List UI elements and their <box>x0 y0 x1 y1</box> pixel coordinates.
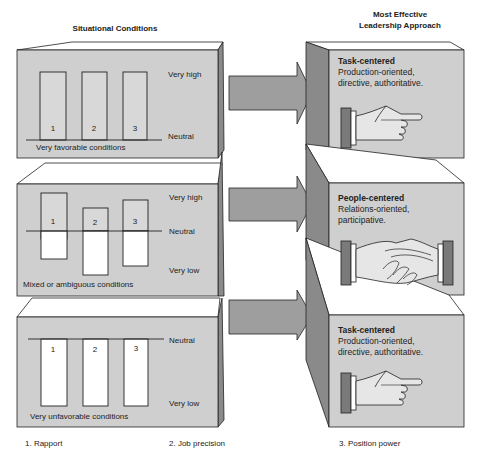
situation-caption: Very unfavorable conditions <box>30 412 128 421</box>
approach-line2: directive, authoritative. <box>338 347 423 358</box>
approach-line2: directive, authoritative. <box>338 78 423 89</box>
box-top-face <box>17 163 222 184</box>
arrow-1 <box>229 62 312 124</box>
approach-line2: participative. <box>338 215 409 226</box>
bar-number: 2 <box>83 345 107 354</box>
legend-item-rapport: 1. Rapport <box>25 439 62 448</box>
scale-label-very-high: Very high <box>169 193 202 202</box>
bar-position-power-above <box>123 200 148 231</box>
bar-job-precision-below <box>83 231 108 275</box>
box-side-face <box>218 298 224 427</box>
bar-number: 1 <box>41 217 65 226</box>
scale-label-neutral: Neutral <box>168 132 194 141</box>
approach-title: Task-centered <box>338 56 423 67</box>
box-top-face <box>17 298 220 317</box>
box-top-face <box>17 42 223 50</box>
bar-number: 2 <box>83 218 107 227</box>
approach-title: Task-centered <box>338 325 423 336</box>
box-side-face <box>218 42 224 158</box>
situation-caption: Very favorable conditions <box>36 143 125 152</box>
bar-number: 3 <box>124 344 148 353</box>
bar-position-power-below <box>123 231 148 266</box>
bar-number: 3 <box>123 217 147 226</box>
legend-item-job-precision: 2. Job precision <box>169 439 225 448</box>
approach-line1: Production-oriented, <box>338 336 423 347</box>
scale-label-neutral: Neutral <box>169 227 195 236</box>
bar-number: 1 <box>41 124 65 133</box>
leadership-approach-header-line2: Leadership Approach <box>330 21 470 30</box>
bar-number: 1 <box>41 345 65 354</box>
approach-title: People-centered <box>338 193 409 204</box>
approach-text: Task-centered Production-oriented, direc… <box>338 56 423 89</box>
approach-line1: Relations-oriented, <box>338 204 409 215</box>
bar-number: 3 <box>123 124 147 133</box>
scale-label-very-high: Very high <box>168 70 201 79</box>
approach-text: Task-centered Production-oriented, direc… <box>338 325 423 358</box>
bar-number: 2 <box>82 124 106 133</box>
situation-caption: Mixed or ambiguous conditions <box>23 280 133 289</box>
scale-label-neutral: Neutral <box>169 336 195 345</box>
approach-text: People-centered Relations-oriented, part… <box>338 193 409 226</box>
scale-label-very-low: Very low <box>169 266 199 275</box>
leadership-approach-header-line1: Most Effective <box>330 10 470 19</box>
legend-item-position-power: 3. Position power <box>339 439 400 448</box>
arrow-2 <box>229 176 312 232</box>
bar-rapport-below <box>41 231 67 259</box>
box-top-face <box>306 42 464 50</box>
box-side-face <box>306 42 329 158</box>
box-side-face <box>218 152 224 296</box>
scale-label-very-low: Very low <box>169 399 199 408</box>
situational-conditions-header: Situational Conditions <box>40 24 190 33</box>
approach-line1: Production-oriented, <box>338 67 423 78</box>
arrow-3 <box>229 290 312 340</box>
